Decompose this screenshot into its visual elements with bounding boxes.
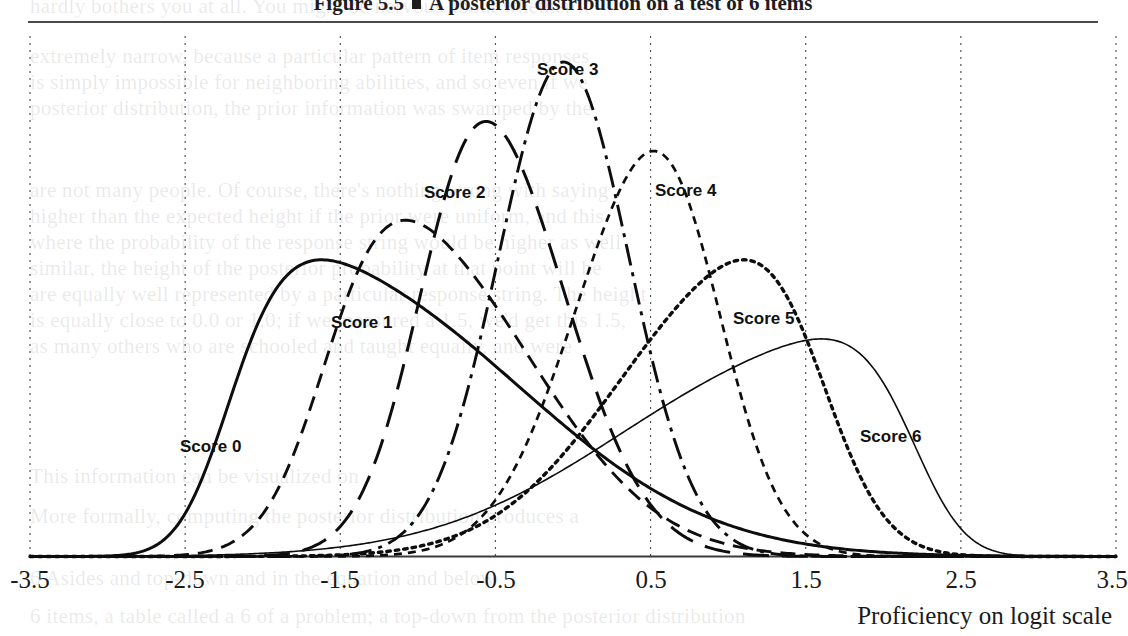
x-tick-label: -2.5	[165, 566, 205, 594]
curve-score-2	[30, 121, 1116, 556]
curve-label-score-1: Score 1	[331, 313, 392, 333]
x-tick-label: 1.5	[790, 566, 821, 594]
curve-label-score-4: Score 4	[655, 181, 716, 201]
gridlines	[30, 36, 1116, 557]
x-tick-label: 3.5	[1096, 566, 1127, 594]
curve-label-score-2: Score 2	[424, 183, 485, 203]
curve-label-score-0: Score 0	[180, 437, 241, 457]
curve-score-1	[30, 220, 1116, 556]
x-tick-label: 2.5	[945, 566, 976, 594]
curve-label-score-6: Score 6	[860, 427, 921, 447]
curve-score-0	[30, 260, 1116, 557]
curve-label-score-3: Score 3	[537, 60, 598, 80]
curve-score-3	[30, 62, 1116, 556]
x-tick-label: -3.5	[10, 566, 50, 594]
curve-label-score-5: Score 5	[733, 309, 794, 329]
x-tick-label: -1.5	[320, 566, 360, 594]
curve-group	[30, 62, 1116, 556]
x-tick-label: -0.5	[476, 566, 516, 594]
x-axis-title: Proficiency on logit scale	[857, 602, 1112, 630]
curve-score-5	[30, 260, 1116, 557]
x-tick-label: 0.5	[635, 566, 666, 594]
